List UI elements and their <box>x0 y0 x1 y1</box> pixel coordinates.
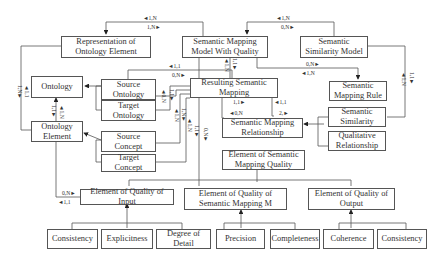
card-v-rep-oe-b: ◄1,1 <box>23 85 29 98</box>
node-resulting-semantic-mapping: Resulting Semantic Mapping <box>190 78 278 98</box>
card-v-ssm-sim-b: 1,1► <box>408 72 414 85</box>
node-explicitness: Explicitness <box>101 229 153 249</box>
card-smmq-rule-top: 0,N► <box>306 62 320 68</box>
node-target-concept: Target Concept <box>101 154 156 172</box>
node-semantic-similarity: Semantic Similarity <box>328 107 386 127</box>
node-ontology-element: Ontology Element <box>31 121 83 142</box>
card-v-concept-c: ◄1,N <box>186 118 192 132</box>
node-consistency-output: Consistency <box>377 229 427 249</box>
card-v-smmq-rsm-a: ◄1,N <box>223 58 229 72</box>
node-source-ontology: Source Ontology <box>101 79 156 100</box>
node-target-ontology: Target Ontology <box>101 100 156 121</box>
node-semantic-mapping-model-with-quality: Semantic Mapping Model With Quality <box>182 36 268 58</box>
node-representation-of-ontology-element: Representation of Ontology Element <box>61 36 151 58</box>
node-ontology: Ontology <box>31 76 83 98</box>
card-src-ont-top: ◄1,1 <box>168 64 181 70</box>
node-element-of-quality-of-semantic-mapping-m: Element of Quality of Semantic Mapping M <box>184 188 287 210</box>
card-smmq-rule-bot: ◄1,N <box>301 71 315 77</box>
node-qualitative-relationship: Qualitative Relationship <box>328 131 386 151</box>
card-v-smmq-down: 0,N► <box>202 128 208 142</box>
card-rsm-rel-right-top: ◄1,1 <box>274 100 287 106</box>
card-input-oe-top: 0,N► <box>62 191 76 197</box>
card-rep-smmq-top: ◄1,N <box>143 16 157 22</box>
node-element-of-quality-of-input: Element of Quality of Input <box>80 189 174 205</box>
card-rsm-rel-left-bot: ◄0,N <box>229 111 243 117</box>
card-v-tgt-ont-a: ◄0,N <box>160 89 166 103</box>
card-v-concept-d: 1,1► <box>193 125 199 138</box>
card-rsm-rel-right-bot: 2,► <box>279 111 289 117</box>
node-semantic-mapping-relationship: Semantic Mapping Relationship <box>222 118 303 138</box>
card-v-ssm-sim-a: ◄1,N <box>400 72 406 86</box>
card-v-ont-oe-a: 1,1► <box>50 105 56 118</box>
node-semantic-similarity-model: Semantic Similarity Model <box>300 36 368 58</box>
node-semantic-mapping-rule: Semantic Mapping Rule <box>329 81 387 101</box>
card-v-smmq-rsm-b: 1,1► <box>231 58 237 71</box>
node-element-of-semantic-mapping-quality: Element of Semantic Mapping Quality <box>222 150 305 170</box>
node-completeness: Completeness <box>270 229 320 249</box>
node-degree-of-detail: Degree of Detail <box>156 229 211 249</box>
card-v-concept-b: 1,N► <box>180 108 186 122</box>
card-smmq-ssm-bot: 0,N► <box>281 25 295 31</box>
card-v-rep-oe-a: 1,N► <box>16 85 22 99</box>
node-element-of-quality-of-output: Element of Quality of Output <box>308 188 395 210</box>
node-coherence: Coherence <box>323 229 374 249</box>
node-consistency-input: Consistency <box>47 229 98 249</box>
node-source-concept: Source Concept <box>101 131 156 152</box>
card-v-tgt-ont-b: 1,1► <box>168 89 174 102</box>
card-v-ont-oe-b: ◄1,N <box>58 105 64 119</box>
card-rsm-rel-left-top: 1,1► <box>233 100 246 106</box>
card-smmq-ssm-top: ◄1,N <box>276 16 290 22</box>
card-v-concept-a: ◄1,N <box>173 108 179 122</box>
card-rep-smmq-bot: 1,N► <box>147 25 161 31</box>
card-input-oe-bot: ◄1,1 <box>58 200 71 206</box>
card-src-ont-bot: 0,N► <box>172 73 186 79</box>
node-precision: Precision <box>216 229 265 249</box>
